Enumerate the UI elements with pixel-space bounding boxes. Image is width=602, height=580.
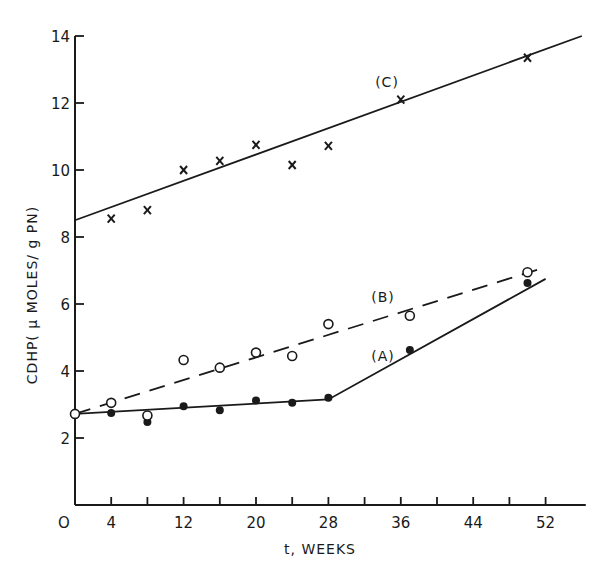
data-points — [71, 54, 533, 426]
point-open-circle — [405, 311, 414, 320]
point-x-marker — [180, 166, 187, 174]
point-open-circle — [324, 320, 333, 329]
point-x-marker — [108, 215, 115, 223]
fit-line-a — [75, 279, 546, 414]
point-filled-circle — [180, 402, 188, 410]
y-tick-label: 8 — [60, 229, 70, 247]
point-x-marker — [253, 141, 260, 149]
y-tick-label: 12 — [51, 95, 70, 113]
chart: O41220283644522468101214 t, WEEKS CDHP( … — [0, 0, 602, 580]
point-open-circle — [523, 268, 532, 277]
x-tick-label: 20 — [246, 514, 265, 532]
point-x-marker — [216, 157, 223, 165]
x-tick-label: 12 — [174, 514, 193, 532]
point-x-marker — [289, 161, 296, 169]
point-filled-circle — [107, 409, 115, 417]
point-open-circle — [288, 351, 297, 360]
point-filled-circle — [406, 346, 414, 354]
y-tick-label: 2 — [60, 430, 70, 448]
y-tick-label: 14 — [51, 28, 70, 46]
point-x-marker — [325, 142, 332, 150]
point-open-circle — [215, 363, 224, 372]
fit-line-b — [75, 267, 546, 414]
point-open-circle — [107, 398, 116, 407]
series-label-b: (B) — [371, 289, 395, 305]
point-open-circle — [143, 411, 152, 420]
y-tick-label: 4 — [60, 363, 70, 381]
y-tick-label: 6 — [60, 296, 70, 314]
x-tick-label: 44 — [464, 514, 483, 532]
point-open-circle — [252, 348, 261, 357]
x-tick-label: 36 — [391, 514, 410, 532]
y-tick-label: 10 — [51, 162, 70, 180]
x-tick-label: O — [58, 514, 70, 532]
point-filled-circle — [524, 279, 532, 287]
point-filled-circle — [288, 399, 296, 407]
series-label-c: (C) — [375, 74, 399, 90]
point-open-circle — [179, 355, 188, 364]
y-axis-label: CDHP( μ MOLES/ g PN) — [24, 206, 40, 384]
fit-lines — [75, 36, 582, 414]
series-label-a: (A) — [371, 348, 395, 364]
point-open-circle — [71, 409, 80, 418]
x-axis-label: t, WEEKS — [284, 541, 356, 557]
x-tick-label: 4 — [106, 514, 116, 532]
point-filled-circle — [252, 396, 260, 404]
x-tick-label: 52 — [536, 514, 555, 532]
point-filled-circle — [324, 394, 332, 402]
x-tick-label: 28 — [319, 514, 338, 532]
point-filled-circle — [216, 406, 224, 414]
fit-line-c — [75, 36, 582, 220]
point-x-marker — [144, 206, 151, 214]
